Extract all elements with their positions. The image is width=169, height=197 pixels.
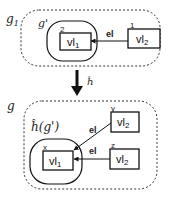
subgraph-g-prime-label: g' xyxy=(38,17,48,30)
homomorphism-label: ĥ xyxy=(87,76,93,87)
node-1: 1 vl2 xyxy=(128,21,160,48)
outer-graph-g-label: g xyxy=(7,99,15,113)
node-2: 2 vl1 xyxy=(60,25,91,50)
edge-label: el xyxy=(89,125,97,135)
homomorphism-arrow: ĥ xyxy=(71,70,93,96)
graph-homomorphism-diagram: g1 g' 2 vl1 1 vl2 el ĥ g ĥ(g') xyxy=(0,0,169,197)
edge-label: el xyxy=(89,146,97,156)
node-z: z vl2 xyxy=(110,141,139,169)
node-x: x vl1 xyxy=(43,143,73,170)
top-graph: g1 g' 2 vl1 1 vl2 el xyxy=(6,10,160,66)
node-y: y vl2 xyxy=(111,104,139,132)
edge-label: el xyxy=(106,29,114,39)
image-subgraph-label: ĥ(g') xyxy=(31,119,59,134)
bottom-graph: g ĥ(g') x vl1 y vl2 z vl2 el el xyxy=(7,99,157,189)
outer-graph-g1-label: g1 xyxy=(6,12,19,28)
